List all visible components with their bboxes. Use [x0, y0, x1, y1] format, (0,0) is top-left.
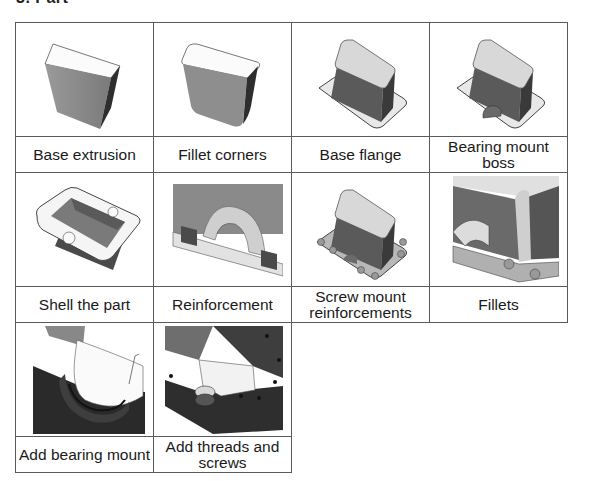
empty-cell	[430, 323, 568, 437]
step-image-cell	[154, 173, 292, 287]
step-label: Base extrusion	[16, 137, 154, 173]
step-image-cell	[154, 23, 292, 137]
reinforcement-image	[163, 176, 283, 284]
step-label: Fillet corners	[154, 137, 292, 173]
label-row: Add bearing mount Add threads and screws	[16, 437, 568, 473]
empty-cell	[430, 437, 568, 473]
fillets-image	[439, 176, 559, 284]
empty-cell	[292, 437, 430, 473]
base-extrusion-image	[25, 26, 145, 134]
step-label: Add threads and screws	[154, 437, 292, 473]
image-row	[16, 23, 568, 137]
step-image-cell	[16, 323, 154, 437]
screw-mount-reinforcements-image	[301, 176, 421, 284]
label-row: Base extrusion Fillet corners Base flang…	[16, 137, 568, 173]
step-label: Bearing mount boss	[430, 137, 568, 173]
add-threads-screws-image	[163, 326, 283, 434]
shell-part-image	[25, 176, 145, 284]
step-label: Screw mount reinforcements	[292, 287, 430, 323]
fillet-corners-image	[163, 26, 283, 134]
image-row	[16, 323, 568, 437]
step-image-cell	[154, 323, 292, 437]
bearing-mount-boss-image	[439, 26, 559, 134]
empty-cell	[292, 323, 430, 437]
step-label: Fillets	[430, 287, 568, 323]
step-image-cell	[292, 173, 430, 287]
step-image-cell	[430, 23, 568, 137]
add-bearing-mount-image	[25, 326, 145, 434]
step-image-cell	[16, 23, 154, 137]
section-heading: 3. Part	[16, 0, 68, 7]
step-label: Reinforcement	[154, 287, 292, 323]
step-label: Add bearing mount	[16, 437, 154, 473]
step-label: Shell the part	[16, 287, 154, 323]
image-row	[16, 173, 568, 287]
base-flange-image	[301, 26, 421, 134]
step-image-cell	[16, 173, 154, 287]
step-label: Base flange	[292, 137, 430, 173]
label-row: Shell the part Reinforcement Screw mount…	[16, 287, 568, 323]
design-steps-table: Base extrusion Fillet corners Base flang…	[15, 22, 568, 473]
step-image-cell	[430, 173, 568, 287]
step-image-cell	[292, 23, 430, 137]
